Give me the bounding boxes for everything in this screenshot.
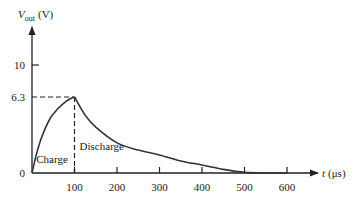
x-tick-label: 100 xyxy=(66,181,83,193)
y-axis-label: Vout(V) xyxy=(18,8,54,23)
x-axis-label-var: t xyxy=(322,167,326,179)
x-tick-label: 400 xyxy=(194,181,211,193)
x-tick-label: 200 xyxy=(109,181,126,193)
y-tick-label: 6.3 xyxy=(11,91,25,103)
y-axis-label-unit: (V) xyxy=(38,8,54,21)
x-axis-label: t(μs) xyxy=(322,167,346,180)
x-tick-label: 600 xyxy=(279,181,296,193)
x-axis-label-unit: (μs) xyxy=(328,167,346,180)
y-tick-label: 0 xyxy=(20,167,26,179)
chart: 100200300400500600 06.310 Vout(V) t(μs) … xyxy=(0,0,354,203)
annotation-discharge: Discharge xyxy=(80,140,125,152)
series-line-vout xyxy=(32,97,287,173)
y-axis-label-sub: out xyxy=(25,14,36,23)
x-tick-label: 300 xyxy=(151,181,168,193)
x-tick-label: 500 xyxy=(236,181,253,193)
y-tick-label: 10 xyxy=(14,59,26,71)
annotation-charge: Charge xyxy=(36,153,68,165)
